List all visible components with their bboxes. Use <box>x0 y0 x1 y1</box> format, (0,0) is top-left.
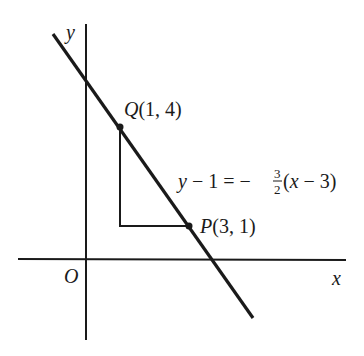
svg-text:y − 1 = −: y − 1 = − <box>176 170 251 193</box>
slope-numerator: 3 <box>274 166 281 181</box>
point-p-label: P(3, 1) <box>199 215 256 238</box>
origin-label: O <box>64 265 78 287</box>
y-axis-label: y <box>64 21 75 44</box>
coordinate-diagram: y x O Q(1, 4) P(3, 1) y − 1 = − 3 2 (x −… <box>0 0 364 356</box>
slope-denominator: 2 <box>274 182 281 197</box>
x-axis <box>18 259 346 260</box>
line-equation: y − 1 = − 3 2 (x − 3) <box>176 166 337 197</box>
svg-text:(x − 3): (x − 3) <box>283 170 337 193</box>
x-axis-label: x <box>331 267 341 289</box>
point-q-coords: (1, 4) <box>138 98 181 121</box>
point-p-coords: (3, 1) <box>212 215 255 238</box>
point-q-marker <box>117 124 124 131</box>
point-q-label: Q(1, 4) <box>124 98 182 121</box>
point-p-marker <box>186 223 193 230</box>
